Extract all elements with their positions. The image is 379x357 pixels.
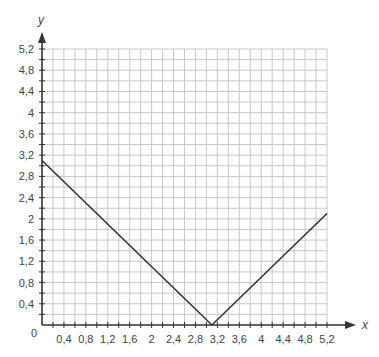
x-tick-label: 5,2 [319,333,334,345]
y-tick-label: 0,8 [19,277,34,289]
x-tick-label: 3,6 [232,333,247,345]
y-tick-label: 4,8 [19,64,34,76]
x-tick-labels: 0,40,81,21,622,42,83,23,644,44,85,2 [56,333,334,345]
y-tick-labels: 0,40,81,21,622,42,83,23,644,44,85,2 [19,43,34,310]
grid-lines [42,49,327,325]
y-tick-label: 3,6 [19,128,34,140]
x-tick-label: 3,2 [210,333,225,345]
x-tick-label: 1,6 [122,333,137,345]
y-tick-label: 1,2 [19,255,34,267]
x-tick-label: 0,8 [78,333,93,345]
x-tick-label: 2,8 [188,333,203,345]
y-tick-label: 4,4 [19,85,34,97]
y-tick-label: 0,4 [19,298,34,310]
y-tick-label: 2 [28,213,34,225]
x-tick-label: 2 [149,333,155,345]
y-tick-label: 2,8 [19,170,34,182]
origin-label: 0 [31,327,37,339]
y-tick-label: 2,4 [19,192,34,204]
x-axis-arrow-icon [345,321,356,329]
x-tick-label: 4,4 [276,333,291,345]
x-tick-label: 0,4 [56,333,71,345]
x-tick-label: 1,2 [100,333,115,345]
y-tick-label: 1,6 [19,234,34,246]
x-tick-label: 4,8 [297,333,312,345]
y-axis-title: y [37,13,45,27]
y-axis-arrow-icon [38,32,46,43]
y-tick-label: 5,2 [19,43,34,55]
tick-marks [39,49,327,328]
x-tick-label: 4 [258,333,264,345]
y-tick-label: 4 [28,107,34,119]
chart-svg: 0,40,81,21,622,42,83,23,644,44,85,2 0,40… [0,0,379,357]
x-tick-label: 2,4 [166,333,181,345]
y-tick-label: 3,2 [19,149,34,161]
x-axis-title: x [361,318,369,332]
